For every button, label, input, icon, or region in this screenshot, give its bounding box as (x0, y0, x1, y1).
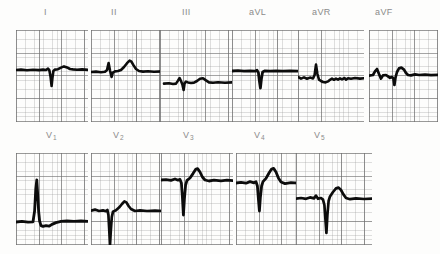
lead-label-subscript: 3 (190, 134, 194, 141)
ecg-trace-svg-v1 (16, 153, 88, 245)
lead-label-subscript: 5 (321, 134, 325, 141)
lead-label-text: V (113, 130, 119, 140)
ecg-waveform-v5 (296, 188, 372, 233)
ecg-trace-svg-avl (232, 30, 298, 122)
lead-label-text: III (182, 7, 191, 17)
lead-label-v4: V4 (254, 130, 264, 140)
lead-label-text: I (44, 7, 47, 17)
lead-label-text: aVL (249, 7, 266, 17)
lead-label-text: V (254, 130, 260, 140)
ecg-panel-avl (232, 30, 298, 122)
ecg-trace-svg-avf (369, 30, 438, 122)
lead-label-text: aVR (312, 7, 331, 17)
ecg-panel-ii (91, 30, 163, 122)
lead-label-text: aVF (375, 7, 393, 17)
ecg-trace-svg-iii (160, 30, 232, 122)
ecg-waveform-i (16, 66, 88, 86)
lead-label-v1: V1 (46, 130, 56, 140)
ecg-waveform-v2 (91, 201, 163, 245)
ecg-waveform-avf (369, 68, 438, 85)
lead-label-subscript: 2 (120, 134, 124, 141)
ecg-panel-avf (369, 30, 438, 122)
ecg-trace-svg-avr (298, 30, 364, 122)
ecg-panel-v3 (161, 153, 233, 245)
lead-label-text: V (314, 130, 320, 140)
lead-label-text: V (183, 130, 189, 140)
lead-label-text: V (46, 130, 52, 140)
ecg-panel-iii (160, 30, 232, 122)
ecg-trace-svg-v5 (296, 153, 372, 245)
lead-label-text: II (111, 7, 117, 17)
ecg-waveform-avr (298, 65, 364, 83)
lead-label-avr: aVR (312, 7, 331, 17)
ecg-waveform-v1 (16, 180, 88, 226)
lead-label-v5: V5 (314, 130, 324, 140)
ecg-panel-v1 (16, 153, 88, 245)
lead-label-avf: aVF (375, 7, 393, 17)
ecg-panel-avr (298, 30, 364, 122)
lead-label-subscript: 1 (53, 134, 57, 141)
ecg-trace-svg-ii (91, 30, 163, 122)
lead-label-v2: V2 (113, 130, 123, 140)
lead-label-i: I (44, 7, 47, 17)
ecg-panel-v5 (296, 153, 372, 245)
ecg-waveform-iii (164, 78, 232, 90)
ecg-panel-i (16, 30, 88, 122)
ecg-trace-svg-i (16, 30, 88, 122)
ecg-waveform-v3 (161, 169, 233, 215)
ecg-trace-svg-v3 (161, 153, 233, 245)
lead-label-avl: aVL (249, 7, 266, 17)
lead-label-iii: III (182, 7, 191, 17)
lead-label-subscript: 4 (261, 134, 265, 141)
ecg-sheet: IIIIIIaVLaVRaVFV1V2V3V4V5 (0, 0, 440, 254)
ecg-waveform-ii (91, 61, 163, 77)
lead-label-v3: V3 (183, 130, 193, 140)
ecg-panel-v2 (91, 153, 163, 245)
ecg-waveform-avl (232, 70, 298, 88)
lead-label-ii: II (111, 7, 117, 17)
ecg-trace-svg-v2 (91, 153, 163, 245)
